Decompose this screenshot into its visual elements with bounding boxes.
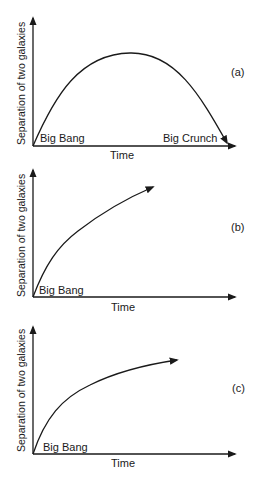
y-axis-label: Separation of two galaxies bbox=[15, 174, 27, 297]
big-bang-label: Big Bang bbox=[43, 441, 88, 453]
cosmology-diagram: Separation of two galaxies Time Big Bang… bbox=[0, 0, 262, 481]
big-bang-label: Big Bang bbox=[40, 132, 85, 144]
x-axis-label: Time bbox=[110, 149, 134, 161]
big-bang-label: Big Bang bbox=[39, 284, 84, 296]
panel-a: Separation of two galaxies Time Big Bang… bbox=[15, 18, 244, 161]
separation-curve bbox=[33, 360, 177, 454]
x-axis-label: Time bbox=[111, 301, 135, 313]
y-axis-label: Separation of two galaxies bbox=[15, 22, 27, 145]
x-axis-label: Time bbox=[111, 457, 135, 469]
panel-tag: (a) bbox=[231, 66, 244, 78]
panel-c: Separation of two galaxies Time Big Bang… bbox=[15, 327, 245, 469]
y-axis-label: Separation of two galaxies bbox=[15, 329, 27, 452]
panel-b: Separation of two galaxies Time Big Bang… bbox=[15, 170, 244, 313]
panel-tag: (c) bbox=[232, 382, 245, 394]
separation-curve bbox=[33, 187, 153, 297]
panel-tag: (b) bbox=[231, 221, 244, 233]
big-crunch-label: Big Crunch bbox=[163, 132, 217, 144]
